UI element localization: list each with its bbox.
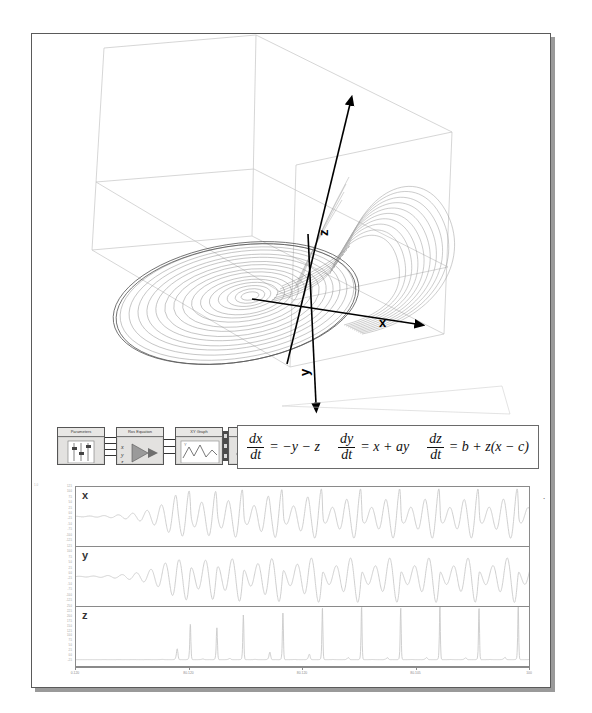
chart-label-z: z — [82, 609, 88, 621]
y-axis-ticks-z: 25.022.520.017.515.012.510.07.55.02.50.0… — [32, 606, 72, 664]
equation-dy-numerator: dy — [338, 432, 355, 448]
wire-bundle-1 — [105, 427, 116, 465]
svg-text:x: x — [120, 444, 124, 450]
y-tick-x-10: -12.5 — [32, 540, 72, 545]
chart-curve-y — [76, 547, 529, 606]
y-axis-ticks-x: 12.510.07.55.02.50.0-2.5-5.0-7.5-10.0-12… — [32, 486, 72, 544]
equation-dy-rhs: = x + ay — [360, 439, 409, 455]
vi-block-parameters[interactable]: Parameters — [57, 427, 105, 465]
axis-label-y: y — [297, 368, 312, 376]
equation-dx-numerator: dx — [247, 432, 264, 448]
x-axis: 0.12080.12080.12080.105100 — [75, 667, 530, 685]
y-tick-y-10: -12.5 — [32, 600, 72, 605]
equation-dz-rhs: = b + z(x − c) — [449, 439, 529, 455]
formula-node-icon: x y z — [118, 438, 162, 463]
chart-pane-y: y — [76, 547, 529, 607]
bounding-box-wireframe — [92, 35, 452, 367]
svg-text:y: y — [120, 452, 124, 458]
chart-label-y: y — [82, 549, 88, 561]
chart-pane-x: x — [76, 487, 529, 547]
waveform-graph-icon: Y — [177, 438, 221, 463]
x-tick-2 — [302, 667, 303, 670]
slider-panel-icon — [59, 438, 103, 463]
vi-title-xy-graph: XY Graph — [176, 428, 222, 437]
equation-dx-denominator: dt — [248, 448, 263, 463]
chart-curve-z — [76, 607, 529, 665]
attractor-svg: z x y — [32, 34, 549, 419]
svg-text:Y: Y — [184, 442, 187, 447]
time-series-frame: x y z — [75, 486, 530, 667]
time-series-charts: 1.0 x y z — [32, 484, 549, 688]
chart-curve-x — [76, 487, 529, 546]
equation-dy-denominator: dt — [339, 448, 354, 463]
x-tick-0 — [75, 667, 76, 670]
x-tick-4 — [529, 667, 530, 670]
x-axis-arrow — [252, 299, 416, 324]
equation-dy-dt: dy dt = x + ay — [338, 432, 409, 462]
vi-title-ros-equation: Ros Equation — [117, 428, 163, 437]
wire-bundle-2 — [164, 427, 175, 465]
attractor-trajectory — [104, 177, 454, 381]
svg-text:z: z — [120, 459, 124, 463]
rossler-attractor-3d-plot: z x y — [32, 34, 549, 419]
vi-block-ros-equation[interactable]: Ros Equation x y z — [116, 427, 164, 465]
x-tick-3 — [416, 667, 417, 670]
x-tick-label-4: 100 — [526, 671, 532, 675]
equation-dx-dt: dx dt = −y − z — [247, 432, 320, 462]
equations-box: dx dt = −y − z dy dt = x + ay dz dt = b … — [237, 425, 539, 469]
equation-dz-dt: dz dt = b + z(x − c) — [427, 432, 529, 462]
x-tick-label-3: 80.105 — [410, 671, 420, 675]
equation-dz-numerator: dz — [427, 432, 443, 448]
x-tick-1 — [189, 667, 190, 670]
chart-corner-mark: ▪ — [544, 496, 545, 501]
x-tick-label-0: 0.120 — [71, 671, 80, 675]
figure-page: z x y Parameters — [31, 33, 551, 688]
axis-label-z: z — [316, 229, 331, 236]
vi-title-parameters: Parameters — [58, 428, 104, 437]
y-tick-z-11: -2.5 — [32, 660, 72, 665]
vi-block-xy-graph[interactable]: XY Graph Y — [175, 427, 223, 465]
chart-label-x: x — [82, 489, 88, 501]
x-tick-label-2: 80.120 — [297, 671, 307, 675]
x-tick-label-1: 80.120 — [183, 671, 193, 675]
equation-dx-rhs: = −y − z — [269, 439, 320, 455]
y-axis-ticks-y: 12.510.07.55.02.50.0-2.5-5.0-7.5-10.0-12… — [32, 546, 72, 604]
axis-label-x: x — [379, 315, 387, 330]
diagram-and-equations-strip: Parameters Ros Equatio — [32, 422, 549, 482]
chart-pane-z: z — [76, 607, 529, 666]
equation-dz-denominator: dt — [428, 448, 443, 463]
